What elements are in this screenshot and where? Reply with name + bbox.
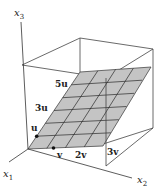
5u-label: 5u	[55, 79, 68, 89]
u-label: u	[31, 123, 38, 133]
x3-axis	[21, 22, 28, 149]
2v-label: 2v	[75, 150, 87, 160]
v-label: v	[56, 150, 63, 160]
x1-axis	[9, 149, 28, 162]
span-plane-diagram: x3 x1 x2 u 3u 5u v 2v 3v	[0, 0, 161, 196]
x1-label: x1	[3, 168, 13, 182]
v-point	[52, 146, 56, 150]
x2-label: x2	[137, 174, 147, 188]
3u-label: 3u	[35, 103, 48, 113]
u-point	[35, 134, 39, 138]
x3-label: x3	[14, 7, 24, 21]
3v-label: 3v	[107, 147, 119, 157]
